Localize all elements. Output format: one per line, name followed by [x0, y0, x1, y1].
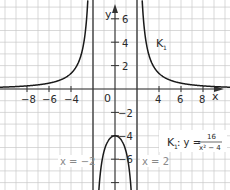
- x-tick-label: −4: [64, 94, 79, 105]
- svg-text:16: 16: [207, 133, 216, 141]
- x-tick-label: 6: [177, 94, 183, 105]
- x-tick-label: 4: [155, 94, 161, 105]
- y-tick-label: 6: [122, 14, 128, 25]
- y-tick-label: −6: [118, 154, 133, 165]
- equation-label: K 1 : y = 16 x² − 4: [159, 130, 227, 152]
- curve-label: K 1: [156, 37, 167, 51]
- origin-label: 0: [104, 92, 111, 105]
- y-tick-label: −4: [118, 131, 133, 142]
- y-axis-label: y: [105, 8, 112, 21]
- svg-text:x = −2: x = −2: [60, 156, 95, 167]
- svg-text:1: 1: [163, 44, 167, 51]
- x-tick-label: −6: [42, 94, 57, 105]
- x-tick-label: 8: [199, 94, 205, 105]
- asymptote-label-right: x = 2: [140, 155, 169, 167]
- y-tick-label: 4: [122, 38, 128, 49]
- y-tick-label: −2: [118, 108, 133, 119]
- function-graph: y x 0 −8 −6 −4 4 6 8 6 4 2 −2 −4 −6 K 1 …: [0, 0, 230, 190]
- x-axis-label: x: [212, 90, 219, 103]
- svg-text:x = 2: x = 2: [142, 156, 169, 167]
- asymptote-label-left: x = −2: [58, 155, 95, 167]
- x-tick-label: −8: [21, 94, 36, 105]
- svg-text:x² − 4: x² − 4: [199, 144, 221, 152]
- y-tick-label: 2: [122, 61, 128, 72]
- svg-text:: y =: : y =: [177, 137, 201, 148]
